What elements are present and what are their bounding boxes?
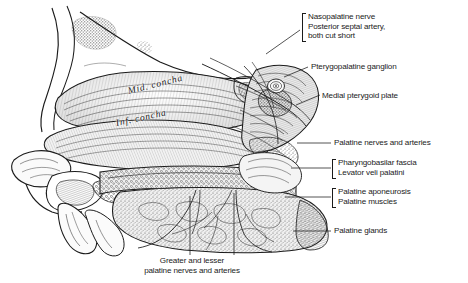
- callout-nasopalatine-nerve: Nasopalatine nerve Posterior septal arte…: [308, 12, 385, 41]
- callout-line: Medial pterygoid plate: [322, 91, 398, 101]
- bracket-nasopalatine: [302, 13, 306, 42]
- callout-pterygopalatine-ganglion: Pterygopalatine ganglion: [311, 62, 397, 72]
- callout-medial-pterygoid-plate: Medial pterygoid plate: [322, 91, 398, 101]
- caption-line: palatine nerves and arteries: [92, 266, 292, 276]
- caption-greater-and-lesser-palatine: Greater and lesser palatine nerves and a…: [92, 256, 292, 275]
- caption-line: Greater and lesser: [92, 256, 292, 266]
- callout-palatine-aponeurosis-muscles: Palatine aponeurosis Palatine muscles: [338, 187, 411, 206]
- callout-palatine-nerves-and-arteries: Palatine nerves and arteries: [334, 138, 431, 148]
- callout-line: Palatine muscles: [338, 197, 411, 207]
- callout-line: Levator veli palatini: [338, 168, 417, 178]
- callout-line: Palatine glands: [334, 226, 387, 236]
- pterygopalatine-ganglion-marker: [268, 79, 285, 93]
- anatomical-plate: Mid. concha Inf. concha Nasopalatine ner…: [0, 0, 468, 283]
- bracket-pharyngobasilar: [332, 159, 336, 179]
- callout-line: Posterior septal artery,: [308, 22, 385, 32]
- callout-line: Nasopalatine nerve: [308, 12, 385, 22]
- callout-palatine-glands: Palatine glands: [334, 226, 387, 236]
- callout-line: Palatine nerves and arteries: [334, 138, 431, 148]
- callout-line: Pharyngobasilar fascia: [338, 158, 417, 168]
- bracket-palatine-aponeurosis: [332, 188, 336, 208]
- callout-pharyngobasilar-fascia-levator: Pharyngobasilar fascia Levator veli pala…: [338, 158, 417, 177]
- callout-line: both cut short: [308, 31, 385, 41]
- callout-line: Palatine aponeurosis: [338, 187, 411, 197]
- callout-line: Pterygopalatine ganglion: [311, 62, 397, 72]
